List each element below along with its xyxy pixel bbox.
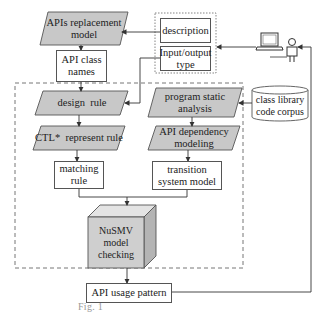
figure-caption: Fig. 1 [78,301,103,312]
matching-rule-node: matching rule [54,161,104,189]
class-library-code-corpus-node: class library code corpus [254,94,306,118]
program-static-analysis-node: program static analysis [154,88,236,117]
api-class-names-node: API class names [56,50,107,82]
design-rule-node: design rule [40,91,124,115]
transition-system-model-node: transition system model [152,161,222,190]
laptop-icon [256,33,283,50]
ctl-represent-rule-node: CTL* represent rule [33,126,125,150]
description-node: description [160,18,211,43]
nusmv-model-checking-node: NuSMV model checking [92,220,140,265]
input-output-type-node: Input/output type [160,46,211,71]
api-usage-pattern-node: API usage pattern [86,283,172,303]
api-dependency-modeling-node: API dependency modeling [154,126,234,150]
apis-replacement-model-node: APIs replacement model [44,12,124,45]
